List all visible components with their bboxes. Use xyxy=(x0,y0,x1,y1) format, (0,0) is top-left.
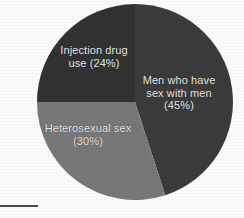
pie-slice-label-injection-drug-use: Injection drug use (24%) xyxy=(48,44,140,69)
pie-slice-label-men-who-have-sex-with-men: Men who have sex with men (45%) xyxy=(138,74,220,112)
bottom-left-rule xyxy=(0,205,38,207)
pie-slice-label-heterosexual-sex: Heterosexual sex (30%) xyxy=(36,122,140,147)
pie-chart-figure: Men who have sex with men (45%) Injectio… xyxy=(0,0,244,218)
